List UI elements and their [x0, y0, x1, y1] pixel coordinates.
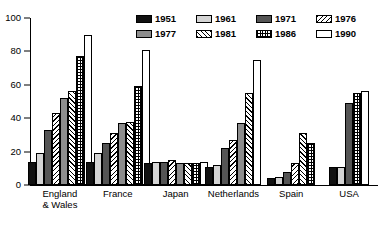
- bar[interactable]: [144, 163, 152, 185]
- bar[interactable]: [192, 163, 200, 185]
- bar-group: [205, 18, 261, 185]
- bar[interactable]: [176, 163, 184, 185]
- y-axis: 020406080100: [0, 0, 30, 228]
- legend-item[interactable]: 1986: [256, 29, 316, 39]
- legend-item[interactable]: 1971: [256, 14, 316, 24]
- y-tick-label: 20: [10, 147, 21, 157]
- bar[interactable]: [126, 122, 134, 185]
- bar[interactable]: [213, 165, 221, 185]
- bar[interactable]: [76, 56, 84, 185]
- bar-group: [86, 18, 150, 185]
- bar[interactable]: [291, 163, 299, 185]
- bar-chart: 020406080100 England & WalesFranceJapanN…: [0, 0, 381, 228]
- bar[interactable]: [229, 140, 237, 185]
- y-tick-label: 60: [10, 80, 21, 90]
- bar[interactable]: [60, 98, 68, 185]
- bar-group: [267, 18, 315, 185]
- x-group-label: Japan: [147, 188, 205, 199]
- bar[interactable]: [329, 167, 337, 185]
- x-axis: England & WalesFranceJapanNetherlandsSpa…: [31, 188, 378, 226]
- legend-label: 1976: [335, 14, 356, 24]
- legend-swatch-icon: [196, 30, 212, 38]
- bar[interactable]: [237, 123, 245, 185]
- y-tick-label: 40: [10, 113, 21, 123]
- x-group-label: England & Wales: [31, 188, 89, 210]
- plot-area: [31, 18, 378, 185]
- bar[interactable]: [94, 153, 102, 185]
- x-group-label: Netherlands: [205, 188, 263, 199]
- bar[interactable]: [245, 93, 253, 185]
- bar[interactable]: [353, 93, 361, 185]
- chart-legend: 19511961197119761977198119861990: [136, 11, 376, 41]
- legend-swatch-icon: [256, 15, 272, 23]
- legend-item[interactable]: 1951: [136, 14, 196, 24]
- legend-label: 1990: [335, 29, 356, 39]
- legend-swatch-icon: [256, 30, 272, 38]
- legend-item[interactable]: 1976: [316, 14, 376, 24]
- legend-swatch-icon: [136, 30, 152, 38]
- legend-swatch-icon: [136, 15, 152, 23]
- bar[interactable]: [44, 130, 52, 185]
- bar[interactable]: [86, 162, 94, 185]
- bar[interactable]: [184, 163, 192, 185]
- bar[interactable]: [36, 153, 44, 185]
- bar[interactable]: [337, 167, 345, 185]
- bar[interactable]: [307, 143, 315, 185]
- bar[interactable]: [275, 177, 283, 185]
- bar[interactable]: [110, 133, 118, 185]
- y-tick-label: 0: [16, 180, 21, 190]
- legend-swatch-icon: [316, 15, 332, 23]
- legend-item[interactable]: 1990: [316, 29, 376, 39]
- bar[interactable]: [205, 167, 213, 185]
- bar[interactable]: [267, 178, 275, 185]
- legend-label: 1981: [215, 29, 236, 39]
- bar-group: [28, 18, 92, 185]
- bar[interactable]: [168, 160, 176, 185]
- legend-label: 1977: [155, 29, 176, 39]
- x-group-label: Spain: [262, 188, 320, 199]
- bar[interactable]: [253, 60, 261, 185]
- bar[interactable]: [361, 91, 369, 185]
- legend-label: 1986: [275, 29, 296, 39]
- y-tick-label: 80: [10, 47, 21, 57]
- bar[interactable]: [345, 103, 353, 185]
- bar[interactable]: [152, 162, 160, 185]
- x-group-label: USA: [320, 188, 378, 199]
- legend-label: 1961: [215, 14, 236, 24]
- bar-group: [329, 18, 369, 185]
- x-axis-line: [30, 185, 378, 186]
- x-group-label: France: [89, 188, 147, 199]
- bar[interactable]: [134, 86, 142, 185]
- legend-item[interactable]: 1961: [196, 14, 256, 24]
- legend-swatch-icon: [316, 30, 332, 38]
- bar[interactable]: [102, 143, 110, 185]
- bar[interactable]: [221, 148, 229, 185]
- bar[interactable]: [299, 133, 307, 185]
- bar-group: [144, 18, 208, 185]
- bar[interactable]: [68, 91, 76, 185]
- bar[interactable]: [283, 172, 291, 185]
- legend-label: 1951: [155, 14, 176, 24]
- legend-item[interactable]: 1977: [136, 29, 196, 39]
- legend-swatch-icon: [196, 15, 212, 23]
- bar[interactable]: [160, 162, 168, 185]
- legend-item[interactable]: 1981: [196, 29, 256, 39]
- y-tick-label: 100: [5, 13, 21, 23]
- legend-label: 1971: [275, 14, 296, 24]
- bar[interactable]: [28, 162, 36, 185]
- bar[interactable]: [118, 123, 126, 185]
- bar[interactable]: [52, 113, 60, 185]
